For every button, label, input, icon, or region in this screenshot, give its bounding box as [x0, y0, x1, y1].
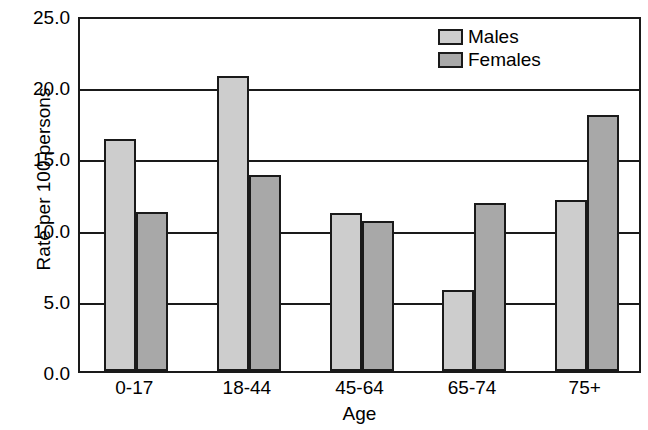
x-axis-tick: 45-64 — [335, 378, 384, 397]
legend-swatch-icon — [438, 52, 463, 68]
legend-item-males: Males — [438, 26, 541, 47]
bar-18-44-males — [217, 76, 249, 371]
y-axis-tick: 10.0 — [24, 221, 70, 240]
y-axis-tick: 25.0 — [24, 8, 70, 27]
x-axis-label: Age — [78, 404, 641, 423]
bar-65-74-females — [474, 203, 506, 371]
y-axis-tick: 0.0 — [24, 364, 70, 383]
bar-45-64-males — [330, 213, 362, 371]
bar-0-17-females — [136, 212, 168, 371]
legend: MalesFemales — [438, 26, 541, 70]
bar-chart-figure: Rate per 100 persons 0.05.010.015.020.02… — [0, 0, 648, 430]
x-axis-tick: 0-17 — [115, 378, 153, 397]
bar-18-44-females — [249, 175, 281, 372]
legend-swatch-icon — [438, 29, 463, 45]
y-axis-tick-labels: 0.05.010.015.020.025.0 — [24, 0, 70, 430]
x-axis-tick-labels: 0-1718-4445-6465-7475+ — [78, 378, 641, 404]
plot-inner — [80, 19, 639, 371]
legend-label: Females — [468, 50, 541, 69]
y-axis-tick: 15.0 — [24, 150, 70, 169]
y-axis-tick: 5.0 — [24, 292, 70, 311]
gridline — [80, 160, 639, 162]
bar-75+-males — [555, 200, 587, 371]
x-axis-tick: 75+ — [569, 378, 601, 397]
y-axis-tick: 20.0 — [24, 79, 70, 98]
plot-area — [78, 17, 641, 373]
x-axis-tick: 18-44 — [223, 378, 272, 397]
legend-item-females: Females — [438, 49, 541, 70]
bar-45-64-females — [362, 221, 394, 371]
bar-0-17-males — [104, 139, 136, 371]
gridline — [80, 89, 639, 91]
legend-label: Males — [468, 27, 519, 46]
x-axis-tick: 65-74 — [448, 378, 497, 397]
bar-65-74-males — [442, 290, 474, 371]
bar-75+-females — [587, 115, 619, 371]
